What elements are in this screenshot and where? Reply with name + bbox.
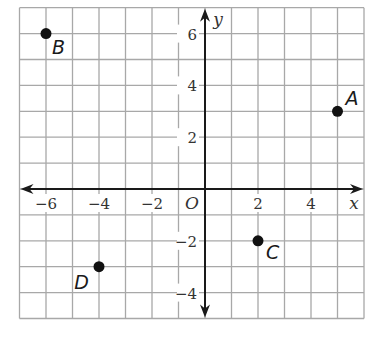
x-tick-label: 2 [253, 195, 263, 213]
point-c [253, 235, 264, 246]
y-tick-label: 4 [187, 77, 197, 95]
point-label-c: C [266, 241, 280, 263]
point-label-d: D [74, 271, 89, 293]
point-label-b: B [52, 36, 65, 58]
point-b [41, 28, 52, 39]
coordinate-plane: −6−4−224642−2−4Oxy ABCD [0, 0, 388, 339]
y-tick-label: −4 [175, 285, 197, 303]
x-tick-label: −2 [141, 195, 163, 213]
x-tick-label: −6 [35, 195, 57, 213]
tick-labels: −6−4−224642−2−4Oxy [32, 9, 362, 303]
y-axis-label: y [212, 9, 223, 29]
point-label-a: A [344, 87, 359, 109]
x-tick-label: −4 [88, 195, 110, 213]
origin-label: O [185, 193, 199, 213]
x-axis-label: x [349, 193, 359, 213]
y-tick-label: 2 [187, 129, 197, 147]
y-tick-label: 6 [187, 26, 197, 44]
y-tick-label: −2 [175, 233, 197, 251]
x-tick-label: 4 [306, 195, 316, 213]
point-d [94, 261, 105, 272]
point-a [332, 106, 343, 117]
grid-lines [20, 8, 365, 319]
